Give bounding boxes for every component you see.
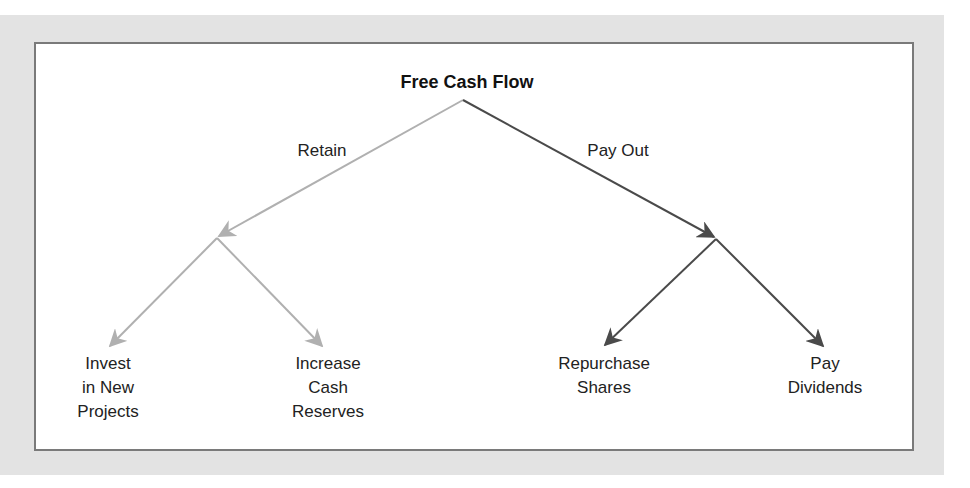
edge-repurchase	[605, 239, 716, 345]
edge-label-payout: Pay Out	[587, 139, 648, 163]
leaf-increase-cash: Increase Cash Reserves	[292, 352, 364, 424]
edge-payout	[463, 100, 714, 237]
edge-invest	[110, 238, 217, 346]
leaf-repurchase: Repurchase Shares	[558, 352, 650, 400]
edge-retain	[219, 100, 463, 236]
root-node-label: Free Cash Flow	[400, 70, 533, 94]
edge-increase-cash	[217, 238, 322, 346]
edge-dividends	[716, 239, 823, 346]
edge-label-retain: Retain	[297, 139, 346, 163]
leaf-invest: Invest in New Projects	[77, 352, 138, 424]
leaf-dividends: Pay Dividends	[788, 352, 863, 400]
